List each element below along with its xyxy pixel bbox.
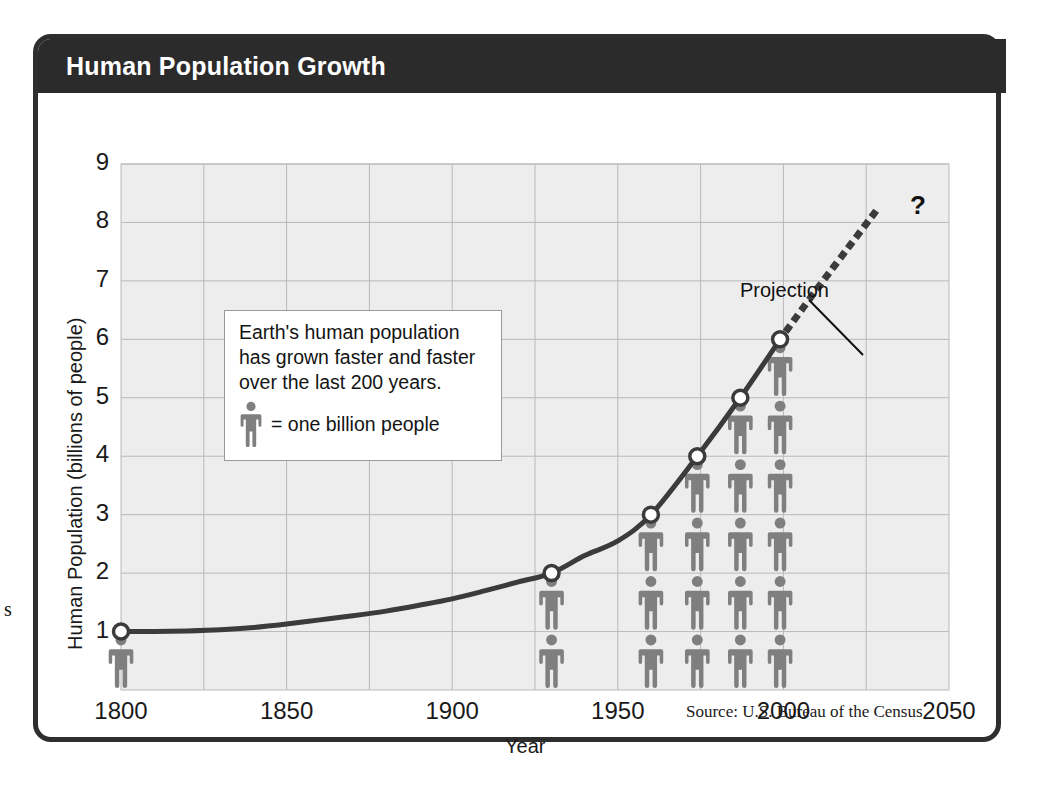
callout-line-2: has grown faster and faster [239, 345, 489, 370]
data-point-marker [114, 624, 129, 639]
page-title: Human Population Growth [38, 52, 386, 81]
population-line-chart [38, 93, 996, 737]
data-point-marker [733, 390, 748, 405]
y-axis-title: Human Population (billions of people) [64, 318, 87, 650]
x-axis-tick-label: 1800 [71, 697, 171, 725]
source-note: Source: U.S. Bureau of the Census [686, 702, 923, 722]
data-point-marker [643, 507, 658, 522]
callout-text: Earth's human population has grown faste… [239, 320, 489, 395]
figure-frame: Human Population Growth Earth's human po… [33, 34, 1001, 742]
x-axis-tick-label: 1850 [237, 697, 337, 725]
figure-title-bar: Human Population Growth [38, 39, 1006, 93]
y-axis-tick-label: 7 [61, 265, 109, 293]
page-margin-letter: s [4, 598, 12, 621]
y-axis-tick-label: 8 [61, 206, 109, 234]
callout-line-1: Earth's human population [239, 320, 489, 345]
legend-key-label: = one billion people [271, 413, 440, 436]
data-point-marker [544, 566, 559, 581]
y-axis-tick-label: 9 [61, 148, 109, 176]
person-icon [239, 401, 263, 447]
data-point-marker [690, 449, 705, 464]
x-axis-tick-label: 1950 [568, 697, 668, 725]
data-point-marker [773, 332, 788, 347]
projection-annotation-label: Projection [740, 279, 829, 302]
question-mark-annotation: ? [910, 190, 926, 221]
x-axis-title: Year [505, 735, 545, 758]
chart-canvas: Earth's human population has grown faste… [38, 93, 996, 737]
callout-legend-box: Earth's human population has grown faste… [224, 310, 502, 461]
x-axis-tick-label: 1900 [402, 697, 502, 725]
callout-line-3: over the last 200 years. [239, 370, 489, 395]
legend-key-row: = one billion people [239, 401, 489, 447]
